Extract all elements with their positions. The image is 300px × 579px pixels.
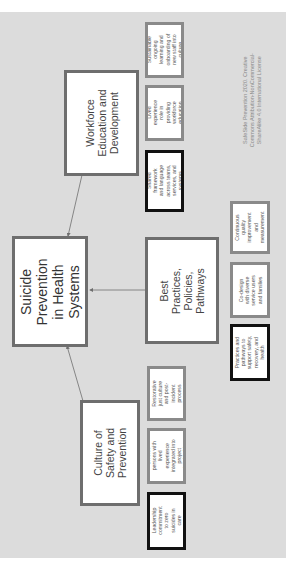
branch-culture: Culture of Safety and Prevention: [80, 400, 140, 506]
item-label: Leadership commitment to zero suicides i…: [151, 504, 182, 537]
branch-workforce-label: Workforce Education and Development: [84, 89, 120, 158]
item-label: Shared framework and language across tea…: [146, 165, 183, 198]
credit-line-2: Commons Attribution-NonCommercial-: [249, 53, 256, 147]
item-practices-pathways: Practices and pathways to support safety…: [230, 324, 270, 381]
item-label: Practices and pathways to support safety…: [234, 335, 265, 369]
central-node-label: Suicide Prevention in Health Systems: [18, 257, 82, 327]
branch-workforce: Workforce Education and Development: [64, 70, 139, 176]
central-node: Suicide Prevention in Health Systems: [12, 236, 88, 347]
item-sustainable-learning: Sustainable ongoing learning and onboard…: [145, 22, 184, 78]
item-label: Lived experience role in providing workf…: [146, 97, 183, 130]
item-co-design: Co-design with diverse service users and…: [230, 262, 270, 318]
item-lived-experience-education: Lived experience role in providing workf…: [145, 85, 184, 141]
item-label: Continuous quality improvement and measu…: [234, 210, 265, 244]
item-label: Sustainable ongoing learning and onboard…: [146, 34, 183, 67]
item-shared-framework: Shared framework and language across tea…: [145, 150, 184, 212]
item-diverse-persons: Diverse persons with lived experience in…: [147, 428, 186, 484]
item-leadership-commitment: Leadership commitment to zero suicides i…: [147, 492, 186, 550]
branch-culture-label: Culture of Safety and Prevention: [92, 426, 128, 480]
item-restorative-culture: Restorative just culture and post-incide…: [147, 366, 186, 421]
item-label: Co-design with diverse service users and…: [238, 273, 263, 307]
credit-line-3: ShareAlike 4.0 International License: [255, 53, 262, 147]
item-label: Restorative just culture and post-incide…: [151, 377, 182, 410]
item-quality-improvement: Continuous quality improvement and measu…: [230, 201, 270, 254]
item-label: Diverse persons with lived experience in…: [147, 439, 186, 472]
branch-best-practices-label: Best Practices, Policies, Pathways: [158, 257, 206, 325]
branch-best-practices: Best Practices, Policies, Pathways: [145, 237, 219, 344]
credit-line-1: SafeSide Prevention 2020. Creative: [242, 53, 249, 147]
license-credit: SafeSide Prevention 2020. Creative Commo…: [232, 40, 272, 160]
